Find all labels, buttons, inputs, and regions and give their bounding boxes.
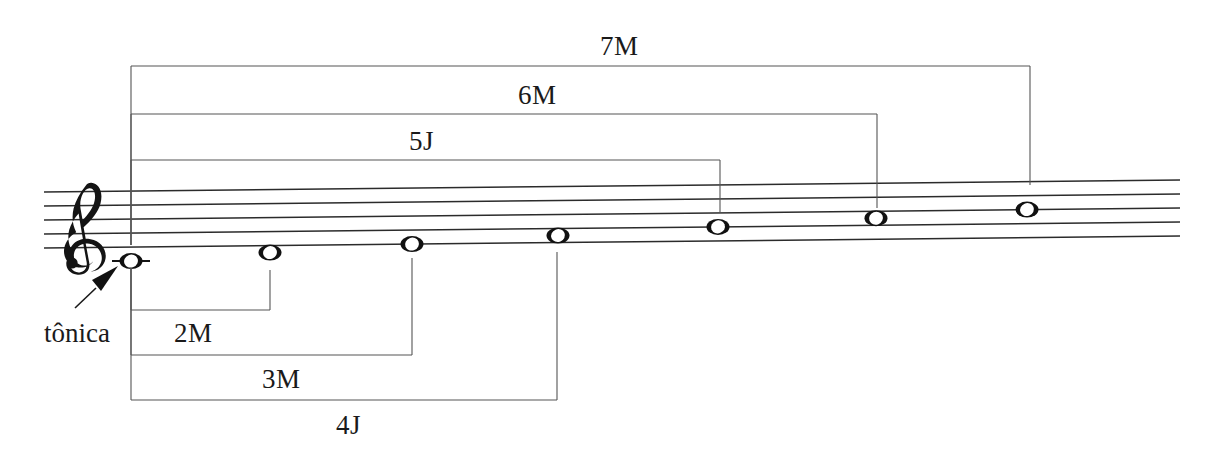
- tonic-label: tônica: [44, 320, 110, 347]
- interval-label-3m: 3M: [262, 366, 301, 393]
- sixth-note: [865, 210, 888, 227]
- interval-label-7m: 7M: [600, 33, 639, 60]
- treble-clef-icon: [64, 183, 106, 275]
- staff-line-3: [44, 208, 1180, 220]
- figure-canvas: 5J 6M 7M 2M 3M 4J tônica: [0, 0, 1219, 463]
- interval-label-6m: 6M: [518, 82, 557, 109]
- staff-lines: [44, 180, 1180, 248]
- third-note: [401, 236, 424, 253]
- music-staff-diagram: [0, 0, 1219, 463]
- staff-line-4: [44, 222, 1180, 234]
- interval-label-4j: 4J: [336, 412, 361, 439]
- fourth-note: [547, 227, 570, 244]
- staff-line-2: [44, 194, 1180, 206]
- fifth-note: [707, 218, 730, 235]
- staff-line-1: [44, 180, 1180, 192]
- bracket-2m: [131, 268, 270, 310]
- second-note: [259, 244, 282, 261]
- bracket-6m: [131, 114, 877, 245]
- tonic-note: [120, 253, 143, 270]
- interval-label-2m: 2M: [174, 320, 213, 347]
- staff-line-5: [44, 236, 1180, 248]
- interval-label-5j: 5J: [409, 128, 434, 155]
- seventh-note: [1016, 201, 1039, 218]
